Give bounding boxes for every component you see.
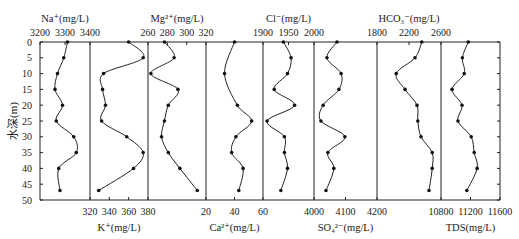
x-tick-label: 320 xyxy=(83,206,98,217)
data-point xyxy=(450,88,454,92)
data-point xyxy=(196,189,200,193)
x-tick-label: 11600 xyxy=(488,206,513,217)
data-point xyxy=(141,56,145,60)
data-point xyxy=(286,72,290,76)
x-tick-label: 300 xyxy=(179,27,194,38)
data-point xyxy=(461,56,465,60)
x-tick-label: 340 xyxy=(102,206,117,217)
data-point xyxy=(326,151,330,155)
data-point xyxy=(465,189,469,193)
series-line-mg2 xyxy=(151,42,197,191)
x-tick-label: 320 xyxy=(199,27,214,38)
x-tick-label: 3200 xyxy=(30,27,50,38)
y-tick-label: 25 xyxy=(22,116,32,127)
panel-axis-title: HCO₃⁻(mg/L) xyxy=(378,13,440,25)
y-axis-title: 水深(m) xyxy=(7,102,20,140)
x-tick-label: 3400 xyxy=(80,27,100,38)
data-point xyxy=(325,56,329,60)
data-point xyxy=(339,72,343,76)
x-tick-label: 260 xyxy=(141,27,156,38)
data-point xyxy=(337,88,341,92)
data-point xyxy=(416,119,420,123)
data-point xyxy=(286,167,290,171)
data-point xyxy=(53,88,57,92)
data-point xyxy=(54,119,58,123)
data-point xyxy=(163,40,167,44)
data-point xyxy=(172,56,176,60)
data-point xyxy=(279,189,283,193)
x-tick-label: 2600 xyxy=(431,27,451,38)
data-point xyxy=(62,56,66,60)
data-point xyxy=(132,167,136,171)
data-point xyxy=(289,56,293,60)
data-point xyxy=(230,151,234,155)
data-point xyxy=(241,167,245,171)
panel-axis-title: TDS(mg/L) xyxy=(446,222,496,234)
data-point xyxy=(101,88,105,92)
y-tick-label: 5 xyxy=(27,52,32,63)
y-tick-label: 0 xyxy=(27,37,32,48)
data-point xyxy=(141,151,145,155)
data-point xyxy=(223,72,227,76)
data-point xyxy=(419,135,423,139)
data-point xyxy=(160,135,164,139)
data-point xyxy=(456,119,460,123)
data-point xyxy=(178,167,182,171)
panel-axis-title: Ca²⁺(mg/L) xyxy=(209,222,260,234)
y-tick-label: 15 xyxy=(22,84,32,95)
data-point xyxy=(236,103,240,107)
data-point xyxy=(104,103,108,107)
data-point xyxy=(321,103,325,107)
data-point xyxy=(237,189,241,193)
data-point xyxy=(319,119,323,123)
y-tick-label: 10 xyxy=(22,68,32,79)
data-point xyxy=(100,119,104,123)
data-point xyxy=(332,167,336,171)
data-point xyxy=(74,151,78,155)
data-point xyxy=(293,103,297,107)
depth-profile-chart: 05101520253035404550水深(m)320033003400Na⁺… xyxy=(0,0,519,239)
x-tick-label: 4100 xyxy=(336,206,356,217)
data-point xyxy=(475,167,479,171)
panel-axis-title: Cl⁻(mg/L) xyxy=(266,13,312,25)
panel-axis-title: Na⁺(mg/L) xyxy=(41,13,89,25)
x-tick-label: 4000 xyxy=(304,206,324,217)
panel-axis-title: Mg²⁺(mg/L) xyxy=(150,13,204,25)
data-point xyxy=(283,135,287,139)
x-tick-label: 1800 xyxy=(367,27,387,38)
data-point xyxy=(149,72,153,76)
data-point xyxy=(58,189,62,193)
x-tick-label: 40 xyxy=(230,206,240,217)
x-tick-label: 1950 xyxy=(279,27,299,38)
data-point xyxy=(430,151,434,155)
data-point xyxy=(250,119,254,123)
y-tick-label: 50 xyxy=(22,195,32,206)
data-point xyxy=(282,40,286,44)
x-tick-label: 2000 xyxy=(304,27,324,38)
data-point xyxy=(472,151,476,155)
data-point xyxy=(403,88,407,92)
data-point xyxy=(324,189,328,193)
data-point xyxy=(394,72,398,76)
x-tick-label: 20 xyxy=(201,206,211,217)
x-tick-label: 380 xyxy=(141,206,156,217)
panel-axis-title: SO₄²⁻(mg/L) xyxy=(318,222,374,234)
data-point xyxy=(56,72,60,76)
data-point xyxy=(97,189,101,193)
data-point xyxy=(127,40,131,44)
data-point xyxy=(413,56,417,60)
data-point xyxy=(343,135,347,139)
data-point xyxy=(430,167,434,171)
data-point xyxy=(102,72,106,76)
x-tick-label: 2200 xyxy=(399,27,419,38)
data-point xyxy=(469,135,473,139)
y-tick-label: 40 xyxy=(22,163,32,174)
data-point xyxy=(233,40,237,44)
data-point xyxy=(66,40,70,44)
data-point xyxy=(167,151,171,155)
data-point xyxy=(462,72,466,76)
data-point xyxy=(335,40,339,44)
y-tick-label: 20 xyxy=(22,100,32,111)
data-point xyxy=(283,151,287,155)
x-tick-label: 3300 xyxy=(55,27,75,38)
